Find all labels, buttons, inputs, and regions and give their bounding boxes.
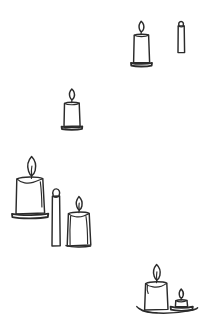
large-pillar-candle-lit	[12, 157, 48, 219]
candle-base-plate	[131, 63, 152, 67]
candle-top-rim	[65, 103, 79, 105]
sketch-canvas: Candle Studies Loose pen sketch of eight…	[0, 0, 206, 325]
wick-loop-icon	[179, 21, 184, 25]
top-right-group	[131, 21, 185, 66]
candle-sketch-drawing	[0, 0, 206, 325]
bottom-right-group	[137, 265, 198, 314]
candle-body	[64, 102, 80, 126]
taper-candle-unlit	[178, 21, 185, 52]
votive-candle-lit	[171, 289, 193, 311]
thin-taper-unlit	[52, 189, 60, 246]
pillar-candle-lit-2	[62, 89, 83, 130]
upper-middle-group	[62, 89, 83, 130]
candle-top-rim	[134, 35, 148, 36]
medium-pillar-candle-lit	[66, 197, 91, 247]
candle-body	[134, 34, 150, 63]
candle-body-shading-line	[86, 217, 88, 244]
wax-drip-line	[147, 285, 148, 293]
candle-top-rim	[146, 283, 167, 287]
taper-body	[52, 196, 60, 246]
flame-icon	[139, 21, 144, 32]
pillar-candle-lit	[131, 21, 152, 66]
wax-drip-line	[40, 182, 42, 207]
table-candle-lit	[145, 265, 168, 311]
candle-top-rim	[17, 179, 42, 183]
candle-base-plate	[12, 214, 48, 219]
wick-loop-icon	[53, 189, 60, 196]
flame-icon	[70, 89, 75, 100]
candle-base-plate	[62, 127, 83, 130]
flame-inner-line	[31, 166, 32, 176]
flame-icon	[179, 289, 183, 298]
taper-body	[178, 26, 185, 53]
candle-body-edge-line	[70, 216, 71, 244]
left-group	[12, 157, 91, 248]
